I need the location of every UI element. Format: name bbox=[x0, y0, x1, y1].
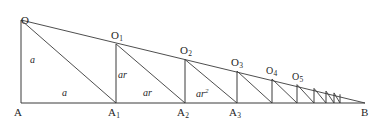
subscript: 3 bbox=[237, 111, 241, 120]
vertex-label-O: O bbox=[21, 15, 29, 26]
length-label-base-ar2: ar2 bbox=[196, 88, 208, 99]
vertex-label-A2: A2 bbox=[177, 107, 189, 118]
diagonal-O6-A7 bbox=[314, 88, 326, 103]
subscript: 1 bbox=[116, 111, 120, 120]
exponent: 2 bbox=[205, 87, 209, 95]
vertex-label-A: A bbox=[14, 107, 22, 118]
geometry-figure: O A B O1 O2 O3 O4 O5 A1 A2 A3 a ar a ar … bbox=[0, 0, 376, 126]
subscript: 5 bbox=[299, 75, 303, 84]
vertex-label-A3: A3 bbox=[229, 107, 241, 118]
diagonal-O7-A8 bbox=[326, 91, 334, 103]
length-label-base-a: a bbox=[62, 88, 67, 98]
vertex-label-O1: O1 bbox=[111, 30, 123, 41]
subscript: 3 bbox=[239, 61, 243, 70]
subscript: 4 bbox=[273, 69, 277, 78]
hypotenuse-group bbox=[21, 20, 365, 103]
length-label-vertical-ar: ar bbox=[118, 70, 127, 80]
diagonal-O5-A6 bbox=[297, 85, 314, 103]
hypotenuse-O-B bbox=[21, 20, 365, 103]
vertex-label-B: B bbox=[361, 107, 368, 118]
subscript: 2 bbox=[185, 111, 189, 120]
subscript: 2 bbox=[188, 49, 192, 58]
length-label-vertical-a: a bbox=[30, 55, 35, 65]
diagonal-group bbox=[21, 20, 340, 103]
subscript: 1 bbox=[119, 34, 123, 43]
vertex-label-O4: O4 bbox=[266, 66, 277, 76]
vertex-label-A1: A1 bbox=[108, 107, 120, 118]
diagonal-O8-A9 bbox=[334, 93, 340, 103]
vertex-label-O3: O3 bbox=[231, 57, 243, 68]
diagonal-O4-A5 bbox=[272, 79, 297, 103]
vertex-label-O5: O5 bbox=[292, 72, 303, 82]
vertex-label-O2: O2 bbox=[180, 45, 192, 56]
length-label-base-ar: ar bbox=[143, 88, 152, 98]
diagonal-O-A1 bbox=[21, 20, 116, 103]
